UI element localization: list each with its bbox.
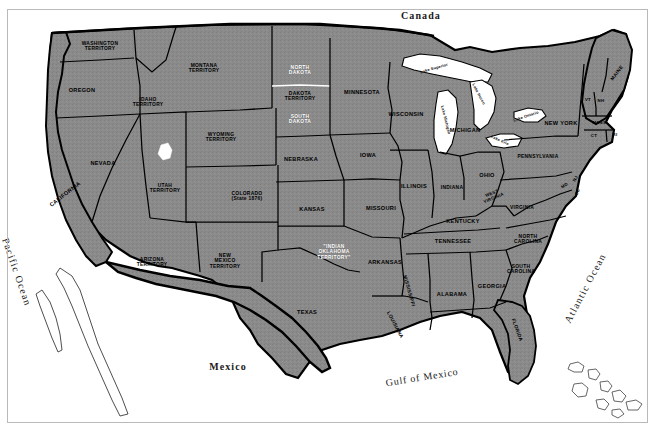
historical-us-map-figure: WASHINGTON TERRITORYOREGONIDAHO TERRITOR… bbox=[0, 0, 655, 431]
lake-erie bbox=[486, 134, 522, 148]
map-graphic bbox=[0, 0, 655, 431]
lake-ontario bbox=[514, 108, 546, 122]
